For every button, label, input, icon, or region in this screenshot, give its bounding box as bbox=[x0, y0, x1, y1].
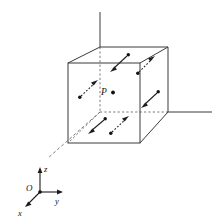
arrow-bottom-right-inward bbox=[109, 116, 129, 135]
arrow-tail-dot bbox=[109, 132, 112, 135]
cube-edge-oblique-bottom-right bbox=[140, 112, 168, 143]
arrow-left-upward bbox=[78, 80, 98, 99]
triad-x-arrowhead bbox=[25, 202, 32, 208]
point-p-label: P bbox=[100, 87, 107, 97]
arrow-head bbox=[110, 67, 117, 73]
axis-label-origin: O bbox=[26, 183, 33, 193]
point-p-group: P bbox=[100, 87, 115, 97]
coordinate-triad-group: O z y x bbox=[17, 164, 63, 218]
flux-arrows-group bbox=[78, 53, 160, 135]
arrow-tail-dot bbox=[104, 117, 107, 120]
arrow-tail-dot bbox=[157, 90, 160, 93]
axis-lines-group bbox=[48, 12, 212, 158]
arrow-head bbox=[91, 80, 98, 86]
axis-label-x: x bbox=[17, 208, 22, 218]
triad-x-axis-line bbox=[28, 192, 40, 204]
triad-origin-dot bbox=[38, 190, 42, 194]
axis-label-z: z bbox=[43, 164, 48, 174]
arrow-top-right-outward bbox=[136, 56, 155, 75]
point-p-dot bbox=[111, 91, 115, 95]
arrow-shaft bbox=[112, 119, 126, 132]
arrow-tail-dot bbox=[136, 72, 139, 75]
figure-container: P O z y x bbox=[0, 0, 217, 222]
oblique-x-axis-line bbox=[48, 112, 100, 158]
axis-label-y: y bbox=[54, 196, 59, 206]
triad-y-arrowhead bbox=[57, 190, 63, 195]
cube-flux-diagram: P O z y x bbox=[0, 0, 217, 222]
triad-z-arrowhead bbox=[38, 167, 43, 173]
arrow-head bbox=[122, 116, 129, 122]
arrow-shaft bbox=[81, 83, 95, 96]
arrow-tail-dot bbox=[78, 96, 81, 99]
cube-edge-oblique-top-right bbox=[140, 47, 168, 63]
cube-edge-oblique-top-left bbox=[68, 47, 100, 63]
arrow-head bbox=[141, 103, 148, 109]
arrow-tail-dot bbox=[127, 53, 130, 56]
arrow-head bbox=[88, 129, 95, 135]
arrow-right-inward bbox=[141, 90, 160, 108]
